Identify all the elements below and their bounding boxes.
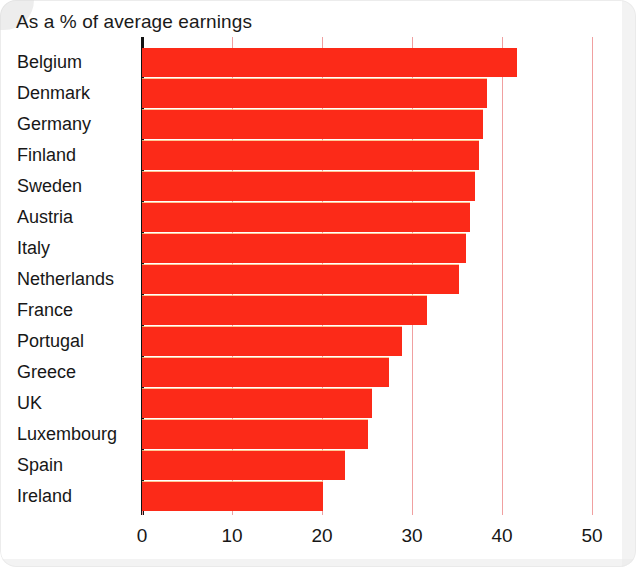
bar-separator [142, 450, 345, 452]
bar-separator [142, 202, 470, 204]
bar-separator [142, 419, 368, 421]
category-label: Denmark [17, 83, 90, 103]
category-label: Spain [17, 455, 63, 475]
bar [142, 48, 517, 77]
category-label: Ireland [17, 486, 72, 506]
bar-separator [142, 78, 487, 80]
bar [142, 358, 389, 387]
bar [142, 172, 475, 201]
category-label: Greece [17, 362, 76, 382]
bar-separator [142, 481, 323, 483]
category-label: France [17, 300, 73, 320]
bar [142, 110, 483, 139]
bar-separator [142, 140, 479, 142]
x-axis-tick-label: 50 [581, 525, 602, 547]
bar [142, 327, 402, 356]
bar-separator [142, 264, 459, 266]
x-axis-tick-mark [412, 498, 413, 515]
bar [142, 296, 427, 325]
x-axis-tick-label: 40 [491, 525, 512, 547]
bar [142, 265, 459, 294]
bar-chart-plot-area: 01020304050BelgiumDenmarkGermanyFinlandS… [0, 0, 636, 567]
chart-page: As a % of average earnings 01020304050Be… [0, 0, 636, 567]
bar-separator [142, 109, 483, 111]
category-label: Germany [17, 114, 91, 134]
bar-separator [142, 295, 427, 297]
category-label: Netherlands [17, 269, 114, 289]
bar [142, 141, 479, 170]
category-label: Italy [17, 238, 50, 258]
bar-separator [142, 171, 475, 173]
bar [142, 79, 487, 108]
category-label: UK [17, 393, 42, 413]
bar [142, 234, 466, 263]
bar [142, 203, 470, 232]
x-axis-tick-label: 30 [401, 525, 422, 547]
category-label: Finland [17, 145, 76, 165]
gridline [502, 37, 503, 515]
category-label: Luxembourg [17, 424, 117, 444]
category-label: Austria [17, 207, 73, 227]
x-axis-tick-mark [592, 498, 593, 515]
gridline [592, 37, 593, 515]
bar-separator [142, 326, 402, 328]
category-label: Portugal [17, 331, 84, 351]
bar [142, 482, 323, 511]
x-axis-tick-label: 20 [311, 525, 332, 547]
category-label: Belgium [17, 52, 82, 72]
bar-separator [142, 388, 372, 390]
bar [142, 420, 368, 449]
bar [142, 389, 372, 418]
bar [142, 451, 345, 480]
x-axis-tick-label: 10 [221, 525, 242, 547]
bar-separator [142, 233, 466, 235]
x-axis-tick-label: 0 [137, 525, 148, 547]
bar-separator [142, 357, 389, 359]
x-axis-tick-mark [502, 498, 503, 515]
category-label: Sweden [17, 176, 82, 196]
